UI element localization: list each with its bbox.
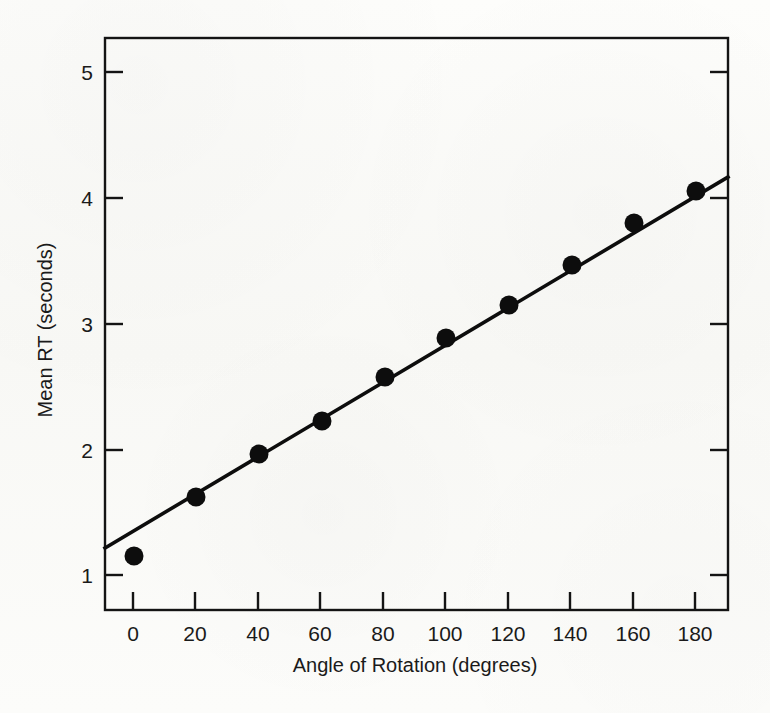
x-tick-label: 40 <box>246 622 269 645</box>
y-tick-labels: 5 4 3 2 1 <box>81 61 93 587</box>
data-point <box>187 488 206 507</box>
x-tick-label: 140 <box>552 622 587 645</box>
x-tick-label: 160 <box>615 622 650 645</box>
data-point <box>250 445 269 464</box>
y-tick-label: 1 <box>81 564 93 587</box>
data-points <box>125 182 706 566</box>
data-point <box>376 368 395 387</box>
x-tick-label: 180 <box>677 622 712 645</box>
data-point <box>500 296 519 315</box>
y-axis-ticks <box>105 72 123 575</box>
y-tick-label: 4 <box>81 187 93 210</box>
data-point <box>125 547 144 566</box>
x-tick-label: 0 <box>127 622 139 645</box>
y-tick-label: 5 <box>81 61 93 84</box>
x-tick-labels: 0 20 40 60 80 100 120 140 160 180 <box>127 622 712 645</box>
y-axis-title: Mean RT (seconds) <box>34 243 56 418</box>
scatter-plot: 5 4 3 2 1 0 20 40 60 80 100 120 140 160 … <box>0 0 770 713</box>
figure-container: 5 4 3 2 1 0 20 40 60 80 100 120 140 160 … <box>0 0 770 713</box>
axes-border <box>105 38 728 610</box>
x-tick-label: 120 <box>490 622 525 645</box>
data-point <box>563 256 582 275</box>
data-point <box>687 182 706 201</box>
plot-frame <box>105 38 728 610</box>
data-point <box>625 214 644 233</box>
x-axis-ticks <box>133 592 695 610</box>
x-axis-title: Angle of Rotation (degrees) <box>293 654 538 676</box>
x-tick-label: 100 <box>427 622 462 645</box>
y-tick-label: 2 <box>81 439 93 462</box>
y-tick-label: 3 <box>81 313 93 336</box>
x-tick-label: 20 <box>183 622 206 645</box>
data-point <box>313 412 332 431</box>
y-axis-ticks-right <box>710 72 728 575</box>
x-tick-label: 60 <box>308 622 331 645</box>
x-tick-label: 80 <box>371 622 394 645</box>
data-point <box>437 329 456 348</box>
